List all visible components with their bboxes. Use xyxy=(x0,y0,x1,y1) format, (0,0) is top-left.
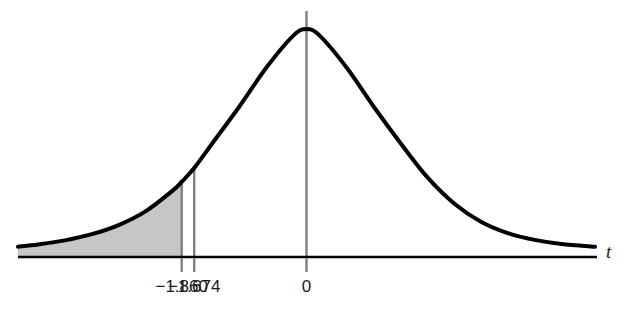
x-axis-label: t xyxy=(606,241,611,263)
x-tick-label-minus-1-674: −1.674 xyxy=(168,277,220,297)
x-tick-label-zero: 0 xyxy=(302,277,311,297)
t-distribution-figure: −1.860 −1.674 0 t xyxy=(0,0,624,313)
distribution-plot xyxy=(0,0,624,313)
